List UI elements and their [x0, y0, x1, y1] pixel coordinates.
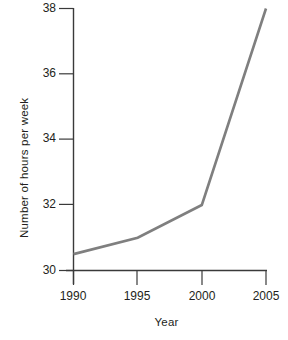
line-chart: 38 36 34 32 30 1990 1995 2000 2005 Numbe…: [0, 0, 288, 340]
x-tick-label-1995: 1995: [117, 289, 157, 303]
x-tick-label-2000: 2000: [182, 289, 222, 303]
y-axis-title: Number of hours per week: [18, 38, 36, 238]
x-tick-label-2005: 2005: [246, 289, 286, 303]
x-tick-label-1990: 1990: [53, 289, 93, 303]
x-axis-title: Year: [0, 316, 288, 328]
y-tick-label-38: 38: [30, 1, 56, 15]
y-tick-label-30: 30: [30, 263, 56, 277]
data-series-line: [74, 9, 267, 255]
